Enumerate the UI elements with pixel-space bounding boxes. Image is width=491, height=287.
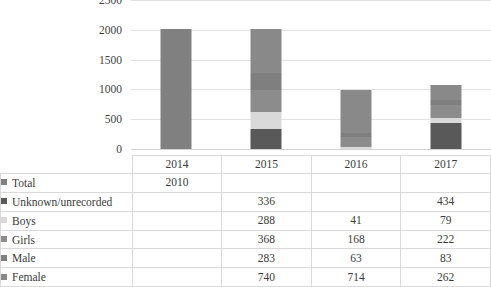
- series-label-cell: Unknown/unrecorded: [1, 192, 133, 211]
- series-label-text: Female: [12, 271, 46, 283]
- y-axis-tick-label: 1500: [99, 55, 122, 67]
- data-value-cell: 283: [222, 249, 312, 268]
- data-value-cell: 336: [222, 192, 312, 211]
- y-axis: 05001000150020002500: [0, 0, 128, 160]
- data-value-cell: [132, 230, 222, 249]
- series-label-cell: Boys: [1, 211, 133, 230]
- bar-segment: [161, 29, 192, 149]
- category-header-cell: 2017: [401, 156, 491, 174]
- legend-swatch-unknown-unrecorded: [1, 198, 7, 204]
- bar-stack: [161, 29, 192, 149]
- table-corner-cell: [1, 156, 133, 174]
- data-value-cell: 262: [401, 268, 491, 287]
- bar-segment: [431, 85, 462, 101]
- y-axis-tick-label: 500: [105, 114, 122, 126]
- data-value-cell: 41: [311, 211, 401, 230]
- bar-column: [221, 0, 311, 155]
- bar-segment: [341, 147, 372, 149]
- legend-swatch-boys: [1, 217, 7, 223]
- data-value-cell: 222: [401, 230, 491, 249]
- series-label-cell: Female: [1, 268, 133, 287]
- series-label-text: Girls: [12, 233, 35, 245]
- plot-area: 05001000150020002500: [0, 0, 491, 160]
- table-row: Girls 368168222: [1, 230, 491, 249]
- data-table: 2014201520162017Total2010 Unknown/unreco…: [0, 155, 491, 287]
- bar-column: [311, 0, 401, 155]
- bar-stack: [341, 90, 372, 149]
- data-value-cell: 434: [401, 192, 491, 211]
- bar-segment: [251, 129, 282, 149]
- bar-segment: [251, 29, 282, 73]
- table-row: Unknown/unrecorded 336 434: [1, 192, 491, 211]
- bar-stack: [431, 85, 462, 149]
- series-label-cell: Total: [1, 174, 133, 193]
- data-value-cell: 63: [311, 249, 401, 268]
- data-table-body: 2014201520162017Total2010 Unknown/unreco…: [1, 156, 491, 287]
- y-axis-tick-label: 2500: [99, 0, 122, 7]
- series-label-cell: Girls: [1, 230, 133, 249]
- bar-stack: [251, 29, 282, 149]
- data-value-cell: [132, 249, 222, 268]
- y-axis-tick-label: 2000: [99, 25, 122, 37]
- table-row: Female 740714262: [1, 268, 491, 287]
- bar-segment: [431, 105, 462, 118]
- bar-segment: [251, 112, 282, 129]
- table-row: Total2010: [1, 174, 491, 193]
- bar-column: [131, 0, 221, 155]
- data-value-cell: 79: [401, 211, 491, 230]
- table-header-row: 2014201520162017: [1, 156, 491, 174]
- y-axis-tick-label: 1000: [99, 84, 122, 96]
- series-label-text: Boys: [12, 215, 36, 227]
- bars-layer: [131, 0, 491, 155]
- legend-swatch-girls: [1, 236, 7, 242]
- category-header-cell: 2016: [311, 156, 401, 174]
- data-value-cell: [311, 192, 401, 211]
- bar-segment: [251, 73, 282, 90]
- legend-swatch-total: [1, 179, 7, 185]
- data-value-cell: [311, 174, 401, 193]
- data-value-cell: 714: [311, 268, 401, 287]
- data-value-cell: 740: [222, 268, 312, 287]
- data-value-cell: 368: [222, 230, 312, 249]
- data-value-cell: [222, 174, 312, 193]
- bar-column: [401, 0, 491, 155]
- bar-segment: [341, 137, 372, 147]
- legend-swatch-male: [1, 255, 7, 261]
- bar-segment: [341, 90, 372, 133]
- data-value-cell: 83: [401, 249, 491, 268]
- data-value-cell: [132, 211, 222, 230]
- y-axis-tick-label: 0: [116, 144, 122, 156]
- bar-segment: [251, 90, 282, 112]
- data-value-cell: [401, 174, 491, 193]
- data-value-cell: 288: [222, 211, 312, 230]
- data-value-cell: 168: [311, 230, 401, 249]
- data-value-cell: [132, 268, 222, 287]
- table-row: Male 2836383: [1, 249, 491, 268]
- category-header-cell: 2014: [132, 156, 222, 174]
- series-label-cell: Male: [1, 249, 133, 268]
- table-row: Boys 2884179: [1, 211, 491, 230]
- data-value-cell: 2010: [132, 174, 222, 193]
- legend-swatch-female: [1, 274, 7, 280]
- data-value-cell: [132, 192, 222, 211]
- category-header-cell: 2015: [222, 156, 312, 174]
- bar-segment: [431, 123, 462, 149]
- series-label-text: Unknown/unrecorded: [12, 196, 112, 208]
- series-label-text: Total: [12, 177, 35, 189]
- series-label-text: Male: [12, 252, 36, 264]
